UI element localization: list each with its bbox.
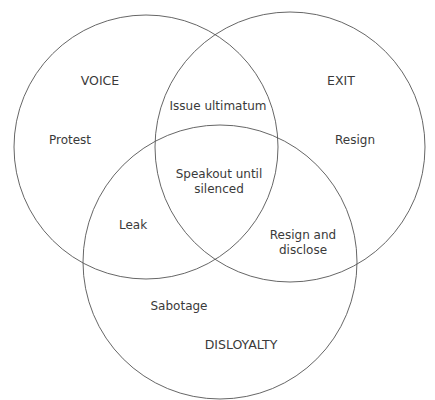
region-exit-disloyalty-line1: Resign and [270,228,336,243]
region-all-line1: Speakout until [176,167,263,182]
region-voice-only: Protest [49,133,91,148]
set-label-voice: VOICE [81,73,119,88]
region-exit-only: Resign [335,133,375,148]
region-all-line2: silenced [194,182,244,197]
region-voice-exit: Issue ultimatum [170,99,267,114]
region-exit-disloyalty-line2: disclose [279,243,327,258]
set-label-disloyalty: DISLOYALTY [205,337,278,352]
region-voice-disloyalty: Leak [119,218,147,233]
set-label-exit: EXIT [327,73,355,88]
region-disloyalty-only: Sabotage [151,299,208,314]
